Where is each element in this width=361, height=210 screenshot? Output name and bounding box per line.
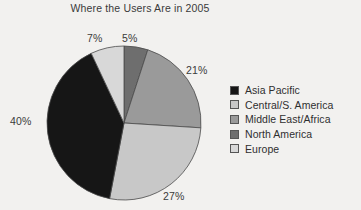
pie-slice-group [47, 46, 201, 200]
pie-chart-figure: Where the Users Are in 2005 5% 21% 27% 4… [0, 0, 361, 210]
legend-swatch-icon [230, 130, 239, 139]
legend-item-europe: Europe [230, 141, 358, 156]
legend-item-label: Asia Pacific [245, 84, 300, 96]
legend-item-label: North America [245, 128, 312, 140]
legend-item-middle-east-africa: Middle East/Africa [230, 112, 358, 127]
legend-item-label: Middle East/Africa [245, 113, 331, 125]
slice-value-label-europe: 7% [87, 32, 102, 44]
legend-swatch-icon [230, 115, 239, 124]
legend-item-asia-pacific: Asia Pacific [230, 83, 358, 98]
legend-item-label: Europe [245, 143, 279, 155]
pie-slice [110, 123, 201, 200]
slice-value-label-middle-east-africa: 21% [186, 64, 207, 76]
chart-legend: Asia Pacific Central/S. America Middle E… [230, 83, 358, 156]
slice-value-label-central-s-america: 27% [163, 190, 184, 202]
slice-value-label-asia-pacific: 40% [10, 115, 31, 127]
legend-swatch-icon [230, 100, 239, 109]
legend-item-north-america: North America [230, 127, 358, 142]
legend-swatch-icon [230, 144, 239, 153]
legend-swatch-icon [230, 86, 239, 95]
legend-item-central-s-america: Central/S. America [230, 98, 358, 113]
legend-item-label: Central/S. America [245, 99, 333, 111]
slice-value-label-north-america: 5% [122, 32, 137, 44]
